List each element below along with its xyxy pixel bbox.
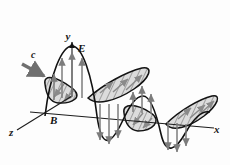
- x-axis-label: x: [213, 123, 220, 135]
- z-axis-line: [17, 96, 72, 130]
- e-vector-label: E: [77, 42, 85, 54]
- em-wave-diagram: y x z E B c: [0, 0, 230, 165]
- propagation-arrow-group: [22, 64, 44, 76]
- c-arrow: [22, 64, 44, 76]
- c-vector-label: c: [31, 49, 36, 60]
- em-wave-figure: y x z E B c: [0, 0, 230, 165]
- y-axis-label: y: [64, 30, 71, 42]
- z-axis-label: z: [8, 126, 14, 138]
- b-vector-label: B: [49, 114, 57, 126]
